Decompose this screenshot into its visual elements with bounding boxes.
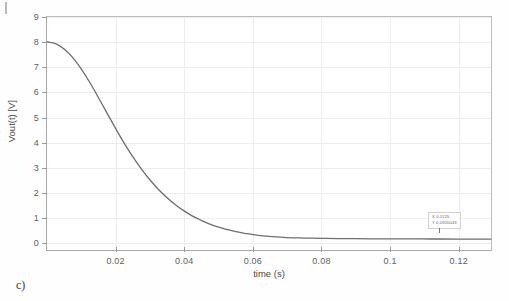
scan-artifact-mark <box>5 2 7 14</box>
y-tick-label: 5 <box>34 113 39 123</box>
y-tick-label: 2 <box>34 188 39 198</box>
subfigure-caption: c) <box>16 278 25 293</box>
y-tick-label: 3 <box>34 163 39 173</box>
plot-area: 0123456789 0.020.040.060.080.10.12 <box>46 16 492 251</box>
curve-svg <box>47 17 491 250</box>
y-tick-label: 9 <box>34 12 39 22</box>
y-tick-label: 0 <box>34 238 39 248</box>
x-tick-label: 0.1 <box>384 256 397 266</box>
data-tip-box[interactable]: X 0.1125 Y 0.0920043 <box>428 212 461 229</box>
y-axis-title: Vout(t) [V] <box>6 100 17 142</box>
x-tick-label: 0.04 <box>175 256 193 266</box>
y-tick-label: 6 <box>34 87 39 97</box>
y-tick-label: 7 <box>34 62 39 72</box>
data-tip-marker <box>439 228 440 233</box>
x-tick-label: 0.08 <box>312 256 330 266</box>
x-tick-label: 0.02 <box>106 256 124 266</box>
y-tick-label: 8 <box>34 37 39 47</box>
y-tick-label: 1 <box>34 213 39 223</box>
x-axis-title: time (s) <box>46 268 492 279</box>
x-tick-label: 0.06 <box>244 256 262 266</box>
y-tick-label: 4 <box>34 138 39 148</box>
vout-curve <box>47 42 491 239</box>
data-tip-y-value: Y 0.0920043 <box>432 220 457 226</box>
x-tick-label: 0.12 <box>450 256 468 266</box>
figure-panel: Vout(t) [V] 0123456789 0.020.040.060.080… <box>0 0 509 301</box>
